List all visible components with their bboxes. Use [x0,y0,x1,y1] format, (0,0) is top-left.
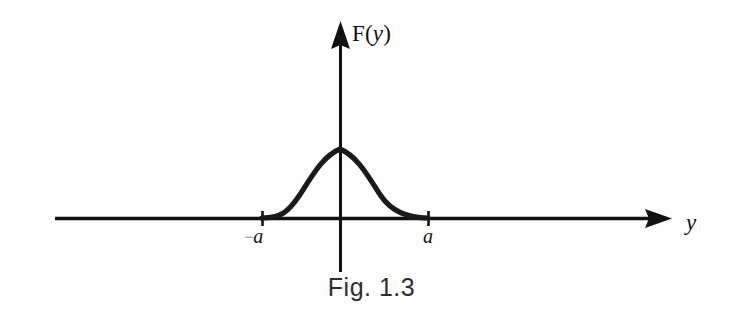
vertical-axis-label-paren: ) [383,21,391,46]
figure-caption: Fig. 1.3 [0,274,735,302]
tick-label-negative-a: −a [244,226,263,246]
minus-sign: − [244,227,253,247]
y-axis-arrowhead [331,21,350,49]
vertical-axis-label: F(y) [352,22,391,45]
tick-label-negative-a-variable: a [253,225,263,247]
horizontal-axis-label: y [686,211,696,234]
figure-container: F(y) y −a a Fig. 1.3 [0,0,735,315]
vertical-axis-label-variable: y [373,21,383,46]
vertical-axis-label-F: F( [352,21,373,46]
tick-label-positive-a: a [423,226,433,246]
figure-drawing [0,0,735,315]
x-axis-arrowhead [645,209,672,228]
function-curve [262,149,428,218]
